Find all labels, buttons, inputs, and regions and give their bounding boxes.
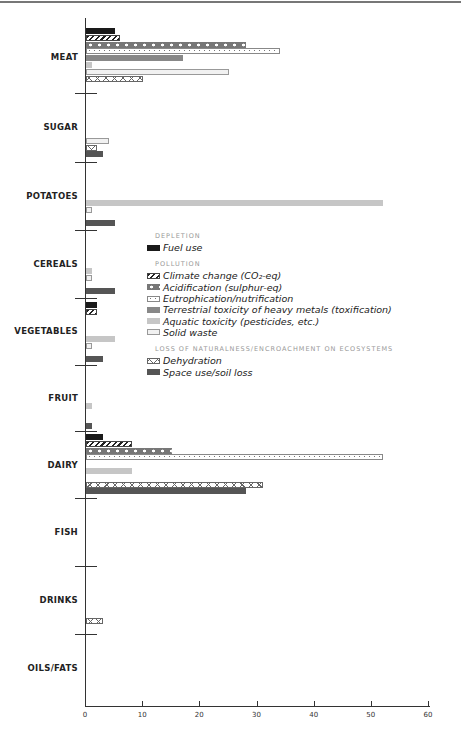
legend-label: Dehydration — [163, 355, 222, 366]
legend-item-eutro: Eutrophication/nutrification — [147, 293, 393, 304]
bar-solid — [86, 343, 92, 349]
bar-dehyd — [86, 618, 103, 624]
legend-heading-loss: LOSS OF NATURALNESS/ENCROACHMENT ON ECOS… — [155, 345, 393, 353]
bar-fuel — [86, 434, 103, 440]
x-tick-mark — [142, 701, 143, 706]
bar-eutro — [86, 454, 383, 460]
x-tick-label: 20 — [195, 711, 204, 719]
category-label-fish: FISH — [55, 527, 78, 537]
y-axis — [85, 18, 86, 707]
category-label-fruit: FRUIT — [48, 393, 78, 403]
legend-label: Aquatic toxicity (pesticides, etc.) — [163, 316, 319, 327]
x-tick-mark — [371, 701, 372, 706]
legend-label: Climate change (CO₂-eq) — [163, 270, 281, 281]
category-label-drinks: DRINKS — [40, 595, 78, 605]
bar-aqua — [86, 200, 383, 206]
x-tick-label: 30 — [252, 711, 261, 719]
group-separator — [75, 162, 97, 163]
bar-space — [86, 423, 92, 429]
bar-solid — [86, 138, 109, 144]
bar-dehyd — [86, 145, 97, 151]
x-tick-mark — [257, 701, 258, 706]
fuel-swatch-icon — [147, 245, 160, 251]
x-tick-label: 10 — [138, 711, 147, 719]
bar-space — [86, 488, 246, 494]
bar-eutro — [86, 48, 280, 54]
group-separator — [75, 498, 97, 499]
legend-item-solid: Solid waste — [147, 327, 393, 338]
group-separator — [75, 634, 97, 635]
category-label-potatoes: POTATOES — [26, 191, 78, 201]
acidification-swatch-icon — [147, 284, 160, 290]
bar-solid — [86, 275, 92, 281]
x-tick-label: 40 — [309, 711, 318, 719]
group-separator — [75, 566, 97, 567]
legend-item-terr: Terrestrial toxicity of heavy metals (to… — [147, 304, 393, 315]
legend-label: Acidification (sulphur-eq) — [163, 282, 282, 293]
legend-heading-pollution: POLLUTION — [155, 260, 393, 268]
eutrophication-swatch-icon — [147, 296, 160, 302]
category-label-vegetables: VEGETABLES — [14, 326, 78, 336]
bar-acid — [86, 448, 172, 454]
bar-space — [86, 220, 115, 226]
x-tick-mark — [314, 701, 315, 706]
bar-aqua — [86, 62, 92, 68]
bar-solid — [86, 207, 92, 213]
legend-item-dehyd: Dehydration — [147, 355, 393, 366]
bar-climate — [86, 35, 120, 41]
group-separator — [75, 230, 97, 231]
legend-label: Eutrophication/nutrification — [163, 293, 293, 304]
aquatic-toxicity-swatch-icon — [147, 318, 160, 324]
bar-space — [86, 356, 103, 362]
bar-space — [86, 151, 103, 157]
dehydration-swatch-icon — [147, 358, 160, 364]
legend: DEPLETION Fuel use POLLUTION Climate cha… — [147, 232, 393, 378]
terrestrial-toxicity-swatch-icon — [147, 307, 160, 313]
group-separator — [75, 365, 97, 366]
bar-space — [86, 288, 115, 294]
category-label-cereals: CEREALS — [33, 259, 78, 269]
legend-label: Space use/soil loss — [163, 367, 252, 378]
bar-climate — [86, 309, 97, 315]
x-tick-label: 0 — [83, 711, 87, 719]
legend-heading-depletion: DEPLETION — [155, 232, 393, 240]
bar-dehyd — [86, 482, 263, 488]
category-label-sugar: SUGAR — [43, 122, 78, 132]
bar-aqua — [86, 336, 115, 342]
x-tick-mark — [85, 701, 86, 706]
x-tick-mark — [199, 701, 200, 706]
bar-climate — [86, 441, 132, 447]
legend-label: Terrestrial toxicity of heavy metals (to… — [163, 304, 392, 315]
x-tick-mark — [428, 701, 429, 706]
category-label-oils-fats: OILS/FATS — [28, 663, 78, 673]
bar-aqua — [86, 403, 92, 409]
legend-item-aqua: Aquatic toxicity (pesticides, etc.) — [147, 315, 393, 326]
legend-item-fuel: Fuel use — [147, 242, 393, 253]
x-tick-label: 60 — [424, 711, 433, 719]
legend-label: Fuel use — [163, 242, 202, 253]
bar-solid — [86, 69, 229, 75]
legend-item-climate: Climate change (CO₂-eq) — [147, 270, 393, 281]
climate-swatch-icon — [147, 273, 160, 279]
category-label-meat: MEAT — [51, 52, 78, 62]
legend-item-space: Space use/soil loss — [147, 366, 393, 377]
category-label-dairy: DAIRY — [47, 460, 78, 470]
group-separator — [75, 431, 97, 432]
bar-acid — [86, 42, 246, 48]
top-rule — [0, 1, 461, 3]
bar-aqua — [86, 268, 92, 274]
legend-item-acid: Acidification (sulphur-eq) — [147, 282, 393, 293]
x-tick-label: 50 — [366, 711, 375, 719]
bar-dehyd — [86, 76, 143, 82]
x-axis — [85, 706, 430, 707]
group-separator — [75, 93, 97, 94]
bar-fuel — [86, 28, 115, 34]
bar-terr — [86, 55, 183, 61]
solid-waste-swatch-icon — [147, 329, 160, 335]
space-use-swatch-icon — [147, 369, 160, 375]
group-separator — [75, 298, 97, 299]
bar-aqua — [86, 468, 132, 474]
bar-fuel — [86, 302, 97, 308]
legend-label: Solid waste — [163, 327, 217, 338]
